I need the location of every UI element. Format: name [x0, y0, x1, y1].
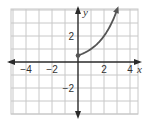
x-tick-label: 4: [127, 64, 133, 75]
x-axis-label: x: [136, 63, 142, 75]
x-tick-label: −2: [46, 64, 58, 75]
y-axis-down-arrow-icon: [75, 111, 81, 119]
start-point-dot: [76, 53, 81, 58]
x-tick-label: −4: [20, 64, 32, 75]
y-tick-label: −2: [63, 83, 75, 94]
graph: −4−2242−2xy: [0, 0, 143, 121]
y-axis-label: y: [82, 6, 88, 18]
x-tick-label: 2: [101, 64, 107, 75]
y-tick-label: 2: [68, 31, 74, 42]
